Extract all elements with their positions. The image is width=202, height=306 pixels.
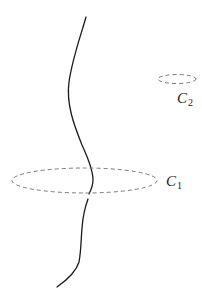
loop-c2	[158, 75, 196, 84]
label-c2-main: C	[177, 90, 188, 106]
label-c2-subscript: 2	[188, 97, 193, 108]
label-c1: C1	[166, 173, 182, 191]
label-c1-subscript: 1	[177, 180, 182, 191]
wire-curve-upper	[68, 17, 93, 194]
wire-curve-lower	[57, 199, 88, 287]
label-c2: C2	[177, 90, 193, 108]
diagram-canvas: C1 C2	[0, 0, 202, 306]
loop-c1	[12, 168, 157, 193]
label-c1-main: C	[166, 173, 177, 189]
